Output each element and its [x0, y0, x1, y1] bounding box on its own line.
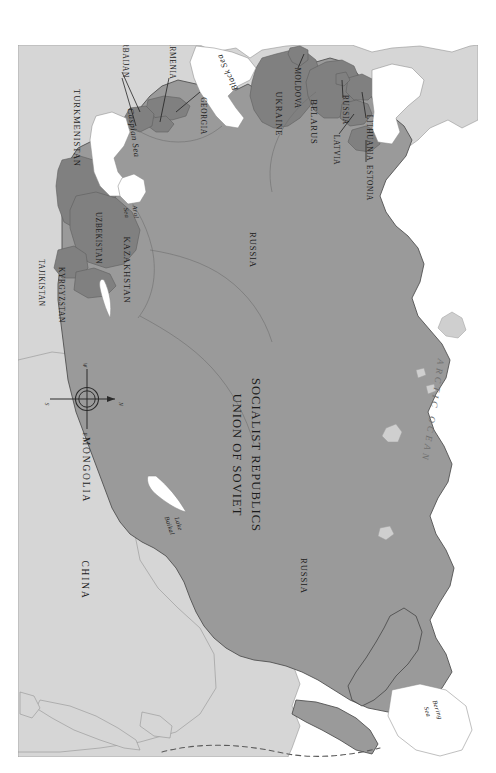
label-belarus: BELARUS — [309, 99, 319, 144]
label-china: CHINA — [80, 560, 90, 599]
label-mongolia: MONGOLIA — [81, 437, 91, 503]
label-russia-main: RUSSIA — [248, 232, 258, 268]
label-turkmenistan: TURKMENISTAN — [72, 89, 82, 167]
label-armenia: ARMENIA — [168, 41, 177, 80]
label-latvia: LATVIA — [332, 135, 341, 166]
label-uzbekistan: UZBEKISTAN — [94, 212, 103, 264]
map-title-line-1: UNION OF SOVIET — [230, 394, 244, 517]
compass-label-north: N — [118, 401, 124, 406]
bering-sea-water — [388, 684, 472, 756]
compass-label-west: W — [82, 363, 88, 368]
label-azerbaijan: AZERBAIJAN — [121, 26, 130, 78]
severnaya-zemlya-island — [438, 312, 466, 338]
label-tajikistan: TAJIKISTAN — [37, 259, 46, 307]
ussr-map: W N E S UNION OF SOVIET SOCIALIST REPUBL… — [0, 0, 496, 773]
label-kazakhstan: KAZAKHSTAN — [122, 236, 132, 303]
label-georgia: GEORGIA — [199, 97, 208, 135]
label-russia-kaliningrad: RUSSIA — [341, 95, 350, 125]
map-canvas: W N E S UNION OF SOVIET SOCIALIST REPUBL… — [0, 0, 496, 773]
compass-label-south: S — [44, 403, 50, 406]
label-kyrgyzstan: KYRGYZSTAN — [57, 267, 66, 323]
label-lithuania: LITHUANIA — [365, 115, 374, 161]
label-moldova: MOLDOVA — [293, 67, 302, 108]
map-title-line-2: SOCIALIST REPUBLICS — [249, 378, 263, 532]
label-russia-east: RUSSIA — [299, 558, 309, 594]
kamchatka-peninsula — [292, 700, 378, 754]
label-ukraine: UKRAINE — [274, 92, 284, 137]
label-aral-sea-line2: Sea — [123, 207, 131, 218]
label-estonia: ESTONIA — [365, 165, 374, 201]
